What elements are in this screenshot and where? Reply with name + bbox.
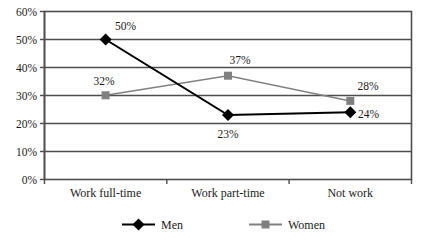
legend-item-men[interactable]: Men	[122, 218, 183, 232]
legend-label-women: Women	[288, 218, 325, 232]
legend: Men Women	[122, 218, 325, 232]
y-tick-label-30: 30%	[16, 90, 38, 102]
data-label-women-work-part-time: 37%	[229, 54, 251, 66]
y-axis	[40, 12, 45, 180]
data-label-men-not-work: 24%	[358, 108, 380, 120]
line-chart: 60% 50% 40% 30% 20% 10% 0% Work full-tim…	[0, 0, 424, 240]
y-tick-label-40: 40%	[16, 62, 38, 74]
y-tick-label-60: 60%	[16, 6, 38, 18]
series-women-marker-work-part-time	[224, 72, 232, 80]
x-axis-tick-labels: Work full-time Work part-time Not work	[70, 186, 373, 200]
data-label-women-not-work: 28%	[357, 80, 379, 92]
legend-label-men: Men	[161, 218, 183, 232]
chart-canvas: 60% 50% 40% 30% 20% 10% 0% Work full-tim…	[0, 0, 424, 240]
legend-marker-men-diamond-icon	[133, 219, 145, 231]
x-tick-label-work-full-time: Work full-time	[70, 186, 141, 200]
legend-marker-women-square-icon	[262, 221, 270, 229]
x-tick-label-work-part-time: Work part-time	[191, 186, 264, 200]
data-label-men-work-part-time: 23%	[217, 128, 239, 140]
series-women-marker-not-work	[346, 97, 354, 105]
data-label-men-work-full-time: 50%	[115, 20, 137, 32]
y-axis-tick-labels: 60% 50% 40% 30% 20% 10% 0%	[16, 6, 38, 186]
series-women-marker-work-full-time	[102, 91, 110, 99]
legend-item-women[interactable]: Women	[249, 218, 325, 232]
y-tick-label-50: 50%	[16, 34, 38, 46]
data-label-women-work-full-time: 32%	[93, 75, 115, 87]
y-tick-label-10: 10%	[16, 146, 38, 158]
x-tick-label-not-work: Not work	[327, 186, 373, 200]
y-tick-label-20: 20%	[16, 118, 38, 130]
y-tick-label-0: 0%	[22, 174, 38, 186]
